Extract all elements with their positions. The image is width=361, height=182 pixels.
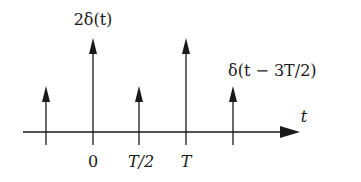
impulse-arrowhead-icon — [89, 38, 97, 54]
impulse-zero — [89, 38, 97, 145]
time-axis — [23, 126, 300, 138]
impulse-half-T — [135, 86, 143, 145]
impulse-arrowhead-icon — [42, 86, 50, 102]
tick-label-T: T — [181, 152, 193, 171]
impulse-arrowhead-icon — [135, 86, 143, 102]
impulse-three-half-T — [229, 86, 237, 145]
impulse-zero-label: 2δ(t) — [74, 10, 113, 29]
impulse-minus-half-T — [42, 86, 50, 145]
axis-arrowhead-icon — [280, 126, 300, 138]
impulse-three-half-label: δ(t − 3T/2) — [228, 61, 317, 80]
tick-label-half-T: T/2 — [128, 152, 154, 171]
impulse-train-diagram: 2δ(t) δ(t − 3T/2) t 0 T/2 T — [0, 0, 361, 182]
impulse-arrowhead-icon — [229, 86, 237, 102]
axis-label: t — [301, 107, 308, 126]
impulse-T — [182, 38, 190, 145]
tick-label-zero: 0 — [88, 152, 98, 171]
impulse-arrowhead-icon — [182, 38, 190, 54]
